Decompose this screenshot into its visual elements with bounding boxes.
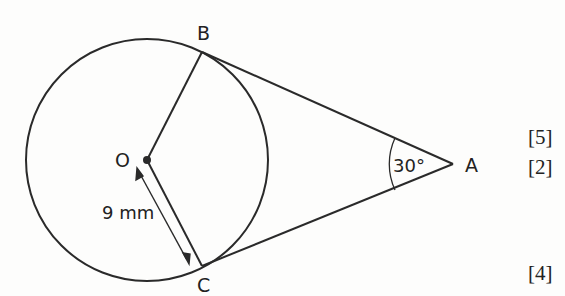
point-label-a: A xyxy=(465,156,478,175)
radius-oc xyxy=(147,160,202,266)
radius-label: 9 mm xyxy=(102,204,154,222)
mark-2: [2] xyxy=(528,157,553,178)
tangent-ba xyxy=(202,52,453,164)
mark-4: [4] xyxy=(528,263,553,284)
mark-5: [5] xyxy=(528,127,553,148)
point-label-o: O xyxy=(115,151,130,170)
point-label-b: B xyxy=(197,24,210,43)
tangent-ca xyxy=(202,164,453,266)
radius-ob xyxy=(147,52,202,160)
angle-label: 30° xyxy=(393,157,425,175)
centre-dot xyxy=(143,156,151,164)
point-label-c: C xyxy=(197,276,210,295)
